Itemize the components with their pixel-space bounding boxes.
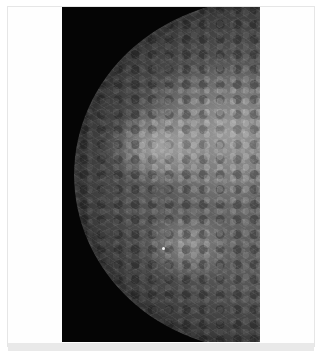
mammogram-panel [62,7,260,342]
fibroglandular-strands [74,7,260,342]
bottom-strip [8,343,314,351]
breast-tissue [74,7,260,342]
calcification-spot [162,247,165,250]
